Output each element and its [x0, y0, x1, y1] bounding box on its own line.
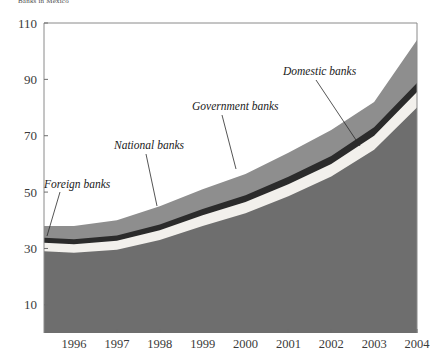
y-tick-label: 30: [24, 241, 37, 256]
series-annotation-label: Domestic banks: [282, 65, 357, 77]
y-tick-label: 90: [24, 72, 37, 87]
chart-page: Banks in Mexico 1030507090110 1996199719…: [0, 0, 430, 363]
x-tick-label: 1998: [147, 337, 172, 351]
series-annotation-label: Foreign banks: [43, 178, 111, 191]
annotation-leader-line: [222, 115, 236, 169]
y-tick-label: 110: [18, 16, 37, 31]
y-tick-label: 70: [24, 128, 37, 143]
x-tick-label: 2002: [319, 337, 344, 351]
x-tick-label: 2003: [362, 337, 387, 351]
x-tick-label: 1999: [190, 337, 215, 351]
y-axis: 1030507090110: [18, 16, 48, 313]
x-tick-label: 2000: [233, 337, 258, 351]
y-tick-label: 10: [24, 297, 37, 312]
y-tick-label: 50: [24, 185, 37, 200]
x-tick-label: 2004: [405, 337, 430, 351]
annotation-leader-line: [146, 154, 157, 206]
area-chart: 1030507090110 19961997199819992000200120…: [0, 0, 430, 363]
x-tick-label: 1997: [104, 337, 129, 351]
x-tick-label: 1996: [62, 337, 87, 351]
x-tick-label: 2001: [276, 337, 301, 351]
series-annotation-label: National banks: [113, 139, 184, 151]
series-annotation-label: Government banks: [192, 100, 279, 112]
